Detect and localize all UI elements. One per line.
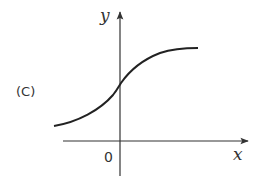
y-axis-label: y — [99, 5, 110, 25]
origin-label: 0 — [104, 149, 113, 165]
option-label: (C) — [16, 84, 35, 99]
x-axis-label: x — [233, 144, 243, 164]
graph-figure: y x 0 (C) — [0, 0, 264, 181]
curve — [54, 48, 198, 126]
